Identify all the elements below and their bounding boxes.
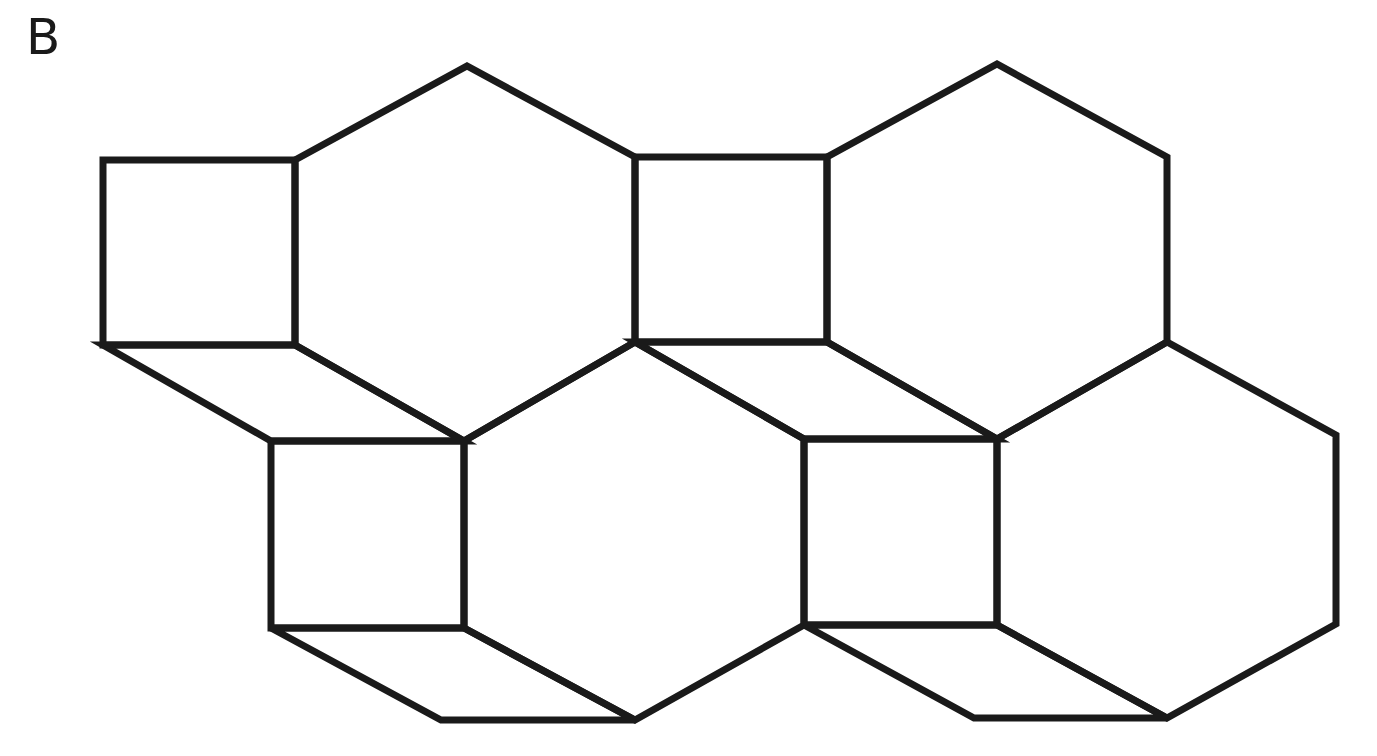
square-3 bbox=[271, 441, 464, 628]
hexagon-4 bbox=[997, 342, 1336, 718]
square-1 bbox=[103, 160, 295, 345]
rhombus-1 bbox=[103, 345, 464, 441]
rhombus-4 bbox=[804, 625, 1167, 718]
hexagon-2 bbox=[827, 64, 1167, 439]
rhombus-3 bbox=[271, 628, 635, 720]
rhombus-2 bbox=[635, 342, 997, 439]
rhombi-group bbox=[103, 342, 1167, 720]
square-4 bbox=[804, 439, 997, 625]
hexagon-3 bbox=[464, 342, 804, 720]
hexagon-1 bbox=[295, 66, 635, 441]
square-2 bbox=[635, 157, 827, 342]
tiling-diagram bbox=[0, 0, 1377, 756]
